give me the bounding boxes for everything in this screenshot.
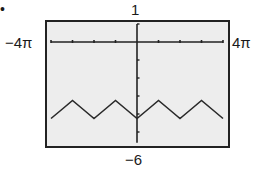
calculator-graph-screen xyxy=(0,0,253,169)
